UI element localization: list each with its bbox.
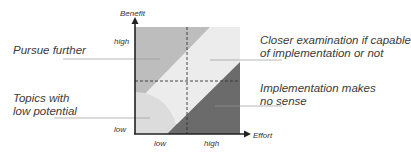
x-tick-high: high bbox=[204, 139, 219, 148]
y-axis-label: Benefit bbox=[120, 9, 145, 18]
label-closer-examination: Closer examination if capable of impleme… bbox=[260, 34, 411, 60]
x-tick-low: low bbox=[154, 139, 166, 148]
label-pursue-further: Pursue further bbox=[13, 44, 86, 57]
y-axis-arrow-icon bbox=[132, 17, 139, 24]
label-low-potential: Topics with low potential bbox=[13, 92, 77, 118]
y-tick-low: low bbox=[114, 125, 126, 134]
y-tick-high: high bbox=[114, 37, 129, 46]
x-axis-arrow-icon bbox=[244, 131, 251, 138]
x-axis-label: Effort bbox=[253, 131, 272, 140]
label-no-sense: Implementation makes no sense bbox=[260, 82, 376, 108]
